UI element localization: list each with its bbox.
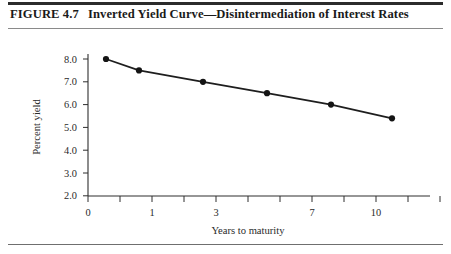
- data-point: [264, 90, 270, 96]
- x-tick-label: 0: [85, 207, 90, 218]
- x-tick-label: 10: [371, 207, 381, 218]
- x-tick-label: 7: [309, 207, 314, 218]
- yield-curve-line: [106, 59, 392, 118]
- header-rule-bottom: [8, 28, 443, 29]
- figure-number: FIGURE 4.7: [10, 7, 79, 21]
- x-tick-label: 1: [149, 207, 154, 218]
- y-tick-label: 7.0: [64, 76, 77, 87]
- x-axis-title: Years to maturity: [211, 225, 285, 236]
- data-point: [136, 67, 142, 73]
- y-tick-label: 5.0: [64, 122, 77, 133]
- x-tick-label: 3: [213, 207, 218, 218]
- y-tick-label: 2.0: [64, 190, 77, 201]
- header-rule-top: [8, 2, 443, 5]
- y-axis-ticks: 8.0 7.0 6.0 5.0 4.0 3.0 2.0: [64, 54, 88, 202]
- footer-rule: [8, 244, 443, 245]
- data-point: [103, 56, 109, 62]
- y-axis-title: Percent yield: [31, 99, 42, 155]
- data-point: [328, 102, 334, 108]
- chart-canvas: 8.0 7.0 6.0 5.0 4.0 3.0 2.0 0: [0, 32, 451, 237]
- y-tick-label: 8.0: [64, 54, 77, 65]
- y-tick-label: 6.0: [64, 99, 77, 110]
- x-axis-ticks: 0 1 3 7 10: [85, 196, 440, 218]
- figure-caption: FIGURE 4.7Inverted Yield Curve—Disinterm…: [10, 7, 409, 22]
- figure-title-text: Inverted Yield Curve—Disintermediation o…: [88, 7, 409, 21]
- yield-curve-markers: [103, 56, 395, 122]
- y-tick-label: 3.0: [64, 168, 77, 179]
- data-point: [200, 79, 206, 85]
- y-tick-label: 4.0: [64, 145, 77, 156]
- yield-curve-chart: 8.0 7.0 6.0 5.0 4.0 3.0 2.0 0: [0, 32, 451, 237]
- data-point: [389, 115, 395, 121]
- figure-page: FIGURE 4.7Inverted Yield Curve—Disinterm…: [0, 0, 451, 254]
